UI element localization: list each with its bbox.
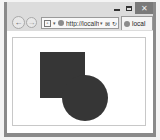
dark-circle-shape [62, 75, 108, 121]
address-dropdown-icon[interactable]: ▾ [53, 20, 56, 26]
title-bar: ✕ [7, 2, 153, 15]
back-arrow-icon: ← [15, 18, 23, 27]
tab-favicon-icon [124, 21, 130, 27]
maximize-icon [126, 6, 132, 11]
forward-button[interactable]: → [26, 17, 37, 28]
page-frame [12, 37, 146, 126]
back-button[interactable]: ← [12, 16, 25, 29]
forward-arrow-icon: → [28, 18, 36, 27]
page-favicon-icon [58, 20, 64, 26]
tab-localhost[interactable]: local [121, 16, 153, 30]
browser-window: ✕ ← → ▫ ▾ http://localho... ▾ ⊠ ↻ local [4, 2, 156, 137]
minimize-button[interactable] [111, 2, 122, 14]
maximize-button[interactable] [123, 2, 134, 14]
refresh-icon[interactable]: ⊠ ↻ [105, 20, 117, 27]
compatibility-view-icon[interactable]: ▫ [44, 20, 51, 27]
address-bar[interactable]: ▫ ▾ http://localho... ▾ ⊠ ↻ [41, 17, 119, 29]
search-dropdown-icon[interactable]: ▾ [100, 20, 103, 26]
navigation-toolbar: ← → ▫ ▾ http://localho... ▾ ⊠ ↻ local [7, 15, 153, 31]
page-content [7, 31, 153, 133]
tab-title: local [132, 20, 145, 27]
close-icon: ✕ [141, 4, 148, 13]
minimize-icon [114, 9, 120, 11]
url-text[interactable]: http://localho... [66, 20, 99, 27]
close-button[interactable]: ✕ [135, 2, 153, 14]
